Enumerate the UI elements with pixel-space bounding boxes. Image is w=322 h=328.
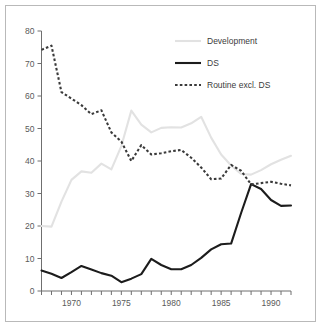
y-tick-label: 30 [25,189,35,199]
y-tick-label: 0 [30,286,35,296]
y-tick-label: 20 [25,221,35,231]
legend-label-development: Development [207,36,258,46]
y-tick-label: 10 [25,254,35,264]
legend-label-routine-excl-ds: Routine excl. DS [207,80,271,90]
legend-label-ds: DS [207,58,219,68]
line-chart: 0102030405060708019701975198019851990 De… [0,0,322,328]
y-tick-label: 60 [25,91,35,101]
x-tick-label: 1980 [162,298,181,308]
axes: 0102030405060708019701975198019851990 [25,26,291,308]
y-tick-label: 70 [25,59,35,69]
chart-figure: 0102030405060708019701975198019851990 De… [0,0,322,328]
series-line-ds [42,184,292,282]
x-tick-label: 1990 [262,298,281,308]
y-tick-label: 50 [25,124,35,134]
chart-legend: DevelopmentDSRoutine excl. DS [175,36,271,90]
x-tick-label: 1975 [112,298,131,308]
series-line-routine-excl-ds [42,46,292,186]
y-tick-label: 80 [25,26,35,36]
series-line-development [42,111,292,227]
x-tick-label: 1970 [62,298,81,308]
y-tick-label: 40 [25,156,35,166]
x-tick-label: 1985 [212,298,231,308]
